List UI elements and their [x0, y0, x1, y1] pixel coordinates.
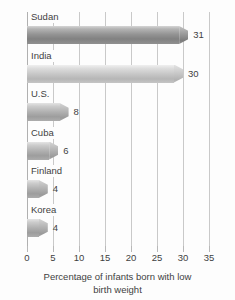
- category-label: Cuba: [30, 127, 57, 139]
- category-label: Finland: [30, 165, 65, 177]
- bar-row: Cuba6: [27, 128, 235, 166]
- bar-row: India30: [27, 51, 235, 89]
- bar-value-label: 6: [63, 145, 68, 157]
- bar-chart: Sudan31India30U.S.8Cuba6Finland4Korea4 0…: [0, 0, 235, 300]
- x-tick-label: 35: [204, 252, 215, 264]
- bar-value-label: 8: [74, 106, 79, 118]
- bar-value-label: 4: [53, 222, 58, 234]
- bar-tip: [49, 142, 58, 160]
- bar-body: [27, 65, 174, 83]
- bar-tip: [174, 65, 183, 83]
- bar-value-label: 4: [53, 183, 58, 195]
- x-tick-label: 20: [126, 252, 137, 264]
- x-tick-label: 15: [100, 252, 111, 264]
- bar: [27, 180, 48, 198]
- bar-tip: [39, 219, 48, 237]
- plot-area: Sudan31India30U.S.8Cuba6Finland4Korea4: [27, 12, 209, 252]
- category-label: Korea: [30, 204, 59, 216]
- bar-body: [27, 26, 179, 44]
- bar-body: [27, 219, 39, 237]
- x-axis-title-line-1: Percentage of infants born with low: [0, 271, 235, 284]
- bar-tip: [39, 180, 48, 198]
- bar-row: U.S.8: [27, 89, 235, 127]
- x-tick-label: 30: [178, 252, 189, 264]
- bar-body: [27, 180, 39, 198]
- category-label: Sudan: [30, 11, 61, 23]
- bar: [27, 103, 69, 121]
- bar: [27, 26, 188, 44]
- category-label: India: [30, 50, 55, 62]
- bar-tip: [60, 103, 69, 121]
- bar-value-label: 30: [188, 68, 199, 80]
- bar: [27, 219, 48, 237]
- bar: [27, 142, 58, 160]
- category-label: U.S.: [30, 88, 52, 100]
- x-tick-label: 5: [50, 252, 55, 264]
- x-axis-title: Percentage of infants born with low birt…: [0, 271, 235, 296]
- bar-row: Finland4: [27, 166, 235, 204]
- bar-body: [27, 103, 60, 121]
- bar-tip: [179, 26, 188, 44]
- bar-row: Sudan31: [27, 12, 235, 50]
- x-axis: 05101520253035: [27, 252, 209, 270]
- x-tick-label: 25: [152, 252, 163, 264]
- x-axis-title-line-2: birth weight: [0, 284, 235, 297]
- x-tick-label: 10: [74, 252, 85, 264]
- bar-body: [27, 142, 49, 160]
- bar-row: Korea4: [27, 205, 235, 243]
- bar-value-label: 31: [193, 29, 204, 41]
- x-tick-label: 0: [24, 252, 29, 264]
- bar: [27, 65, 183, 83]
